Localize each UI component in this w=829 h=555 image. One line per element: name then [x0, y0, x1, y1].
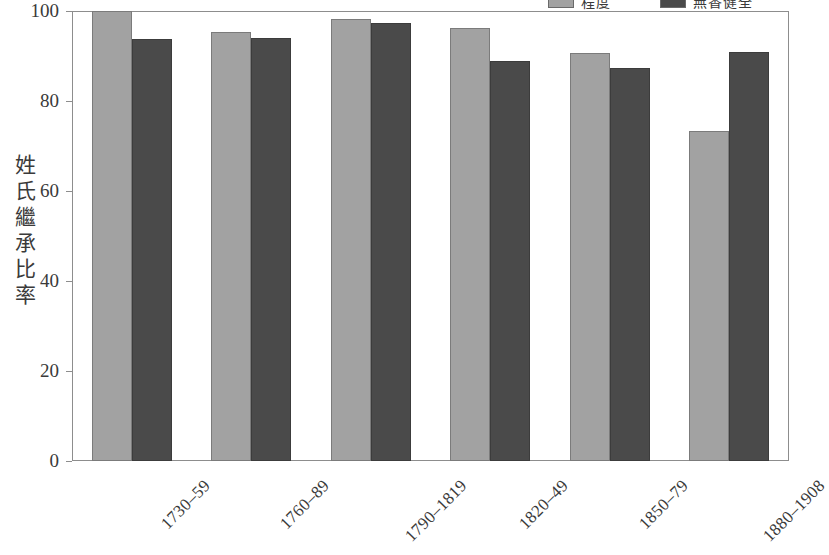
y-axis-tick-label: 40 [40, 271, 66, 290]
bar-series-2[interactable] [729, 52, 769, 461]
bar-group [570, 11, 650, 461]
bar-series-1[interactable] [570, 53, 610, 461]
plot-area [72, 11, 789, 461]
y-axis-tick-label: 80 [40, 91, 66, 110]
legend-swatch-light-gray [548, 0, 574, 8]
legend-label-series-1: 程度 [581, 0, 611, 11]
bars-layer [72, 11, 789, 461]
x-axis-tick-label: 1760–89 [276, 476, 334, 534]
bar-series-2[interactable] [371, 23, 411, 461]
bar-group [331, 11, 411, 461]
x-axis-tick-label: 1730–59 [157, 476, 215, 534]
bar-series-1[interactable] [211, 32, 251, 461]
legend-entry-series-2[interactable]: 無香健全 [660, 0, 753, 11]
y-axis: 020406080100 [0, 0, 72, 462]
bar-group [450, 11, 530, 461]
x-axis: 1730–591760–891790–18191820–491850–79188… [73, 462, 789, 555]
y-axis-tick-label: 0 [50, 451, 67, 470]
bar-series-2[interactable] [251, 38, 291, 461]
x-axis-tick-label: 1850–79 [635, 476, 693, 534]
chart-legend: 程度 無香健全 [0, 0, 797, 11]
bar-series-2[interactable] [132, 39, 172, 461]
bar-series-1[interactable] [92, 11, 132, 461]
bar-series-2[interactable] [610, 68, 650, 461]
legend-entry-series-1[interactable]: 程度 [548, 0, 611, 11]
bar-group [211, 11, 291, 461]
bar-group [92, 11, 172, 461]
x-axis-tick-label: 1790–1819 [401, 476, 471, 546]
x-axis-tick-label: 1880–1908 [759, 476, 829, 546]
bar-group [689, 11, 769, 461]
bar-series-2[interactable] [490, 61, 530, 462]
legend-label-series-2: 無香健全 [693, 0, 753, 11]
y-axis-tick-label: 60 [40, 181, 66, 200]
bar-series-1[interactable] [450, 28, 490, 461]
bar-series-1[interactable] [331, 19, 371, 461]
x-axis-tick-label: 1820–49 [515, 476, 573, 534]
y-axis-tick-label: 20 [40, 361, 66, 380]
bar-series-1[interactable] [689, 131, 729, 461]
legend-swatch-dark-gray [660, 0, 686, 8]
